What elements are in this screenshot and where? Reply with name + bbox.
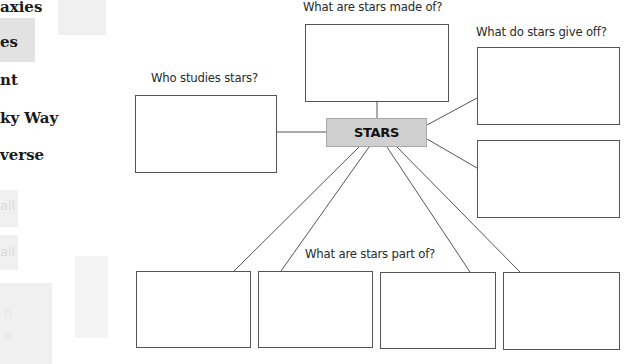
question-part-of: What are stars part of? <box>305 246 435 261</box>
question-made-of: What are stars made of? <box>303 0 442 14</box>
answer-box-who-studies[interactable] <box>135 95 277 173</box>
question-who-studies: Who studies stars? <box>151 70 258 85</box>
line-to-give-off-2 <box>427 139 477 168</box>
center-node-stars: STARS <box>326 118 427 147</box>
answer-box-part-of-2[interactable] <box>258 271 373 348</box>
answer-box-part-of-4[interactable] <box>503 272 620 350</box>
answer-box-give-off-1[interactable] <box>477 47 620 125</box>
answer-box-made-of[interactable] <box>305 24 449 102</box>
question-give-off: What do stars give off? <box>476 24 607 39</box>
line-to-give-off-1 <box>427 98 477 125</box>
answer-box-part-of-1[interactable] <box>136 271 251 348</box>
answer-box-give-off-2[interactable] <box>477 140 620 218</box>
answer-box-part-of-3[interactable] <box>380 272 496 349</box>
